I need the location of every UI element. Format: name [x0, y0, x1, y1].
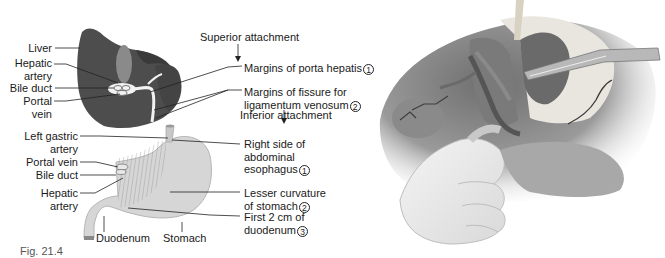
label-bile-duct-stomach: Bile duct	[0, 169, 78, 182]
superior-item-1: Margins of porta hepatis1	[244, 62, 374, 75]
number-badge: 2	[350, 101, 361, 112]
label-line: artery	[0, 70, 52, 83]
item-text: First 2 cm of	[244, 211, 308, 224]
label-portal-vein-stomach: Portal vein	[0, 156, 78, 169]
superior-attachment-heading: Superior attachment	[200, 31, 299, 44]
figure-caption: Fig. 21.4	[20, 245, 63, 258]
label-duodenum: Duodenum	[96, 232, 150, 245]
item-text: Right side of	[244, 138, 310, 151]
inferior-item-3: First 2 cm of duodenum3	[244, 211, 308, 237]
label-hepatic-artery-stomach: Hepatic artery	[0, 187, 78, 212]
label-line: Portal	[0, 95, 52, 108]
number-badge: 1	[299, 165, 310, 176]
surgical-illustration	[380, 0, 660, 244]
label-bile-duct-liver: Bile duct	[0, 82, 52, 95]
item-text: of stomach	[244, 200, 298, 212]
label-line: artery	[0, 143, 78, 156]
superior-item-2: Margins of fissure for ligamentum venosu…	[244, 86, 361, 112]
label-hepatic-artery-liver: Hepatic artery	[0, 57, 52, 82]
label-line: vein	[0, 108, 52, 121]
item-text: abdominal	[244, 151, 310, 164]
item-text: duodenum	[244, 224, 296, 236]
item-text: Margins of porta hepatis	[244, 62, 362, 74]
inferior-item-2: Lesser curvature of stomach2	[244, 187, 326, 213]
item-text: esophagus	[244, 163, 298, 175]
number-badge: 1	[363, 64, 374, 75]
inferior-item-1: Right side of abdominal esophagus1	[244, 138, 310, 176]
label-left-gastric-artery: Left gastric artery	[0, 130, 78, 155]
label-line: Hepatic	[0, 187, 78, 200]
label-line: artery	[0, 200, 78, 213]
label-line: Left gastric	[0, 130, 78, 143]
number-badge: 3	[297, 226, 308, 237]
item-text: Lesser curvature	[244, 187, 326, 200]
label-portal-vein-liver: Portal vein	[0, 95, 52, 120]
gallbladder-shape	[116, 45, 132, 83]
liver-shape	[77, 29, 181, 129]
inferior-attachment-heading: Inferior attachment	[240, 109, 332, 122]
item-text: Margins of fissure for	[244, 86, 361, 99]
label-liver: Liver	[0, 42, 52, 55]
label-line: Hepatic	[0, 57, 52, 70]
label-stomach: Stomach	[163, 232, 206, 245]
